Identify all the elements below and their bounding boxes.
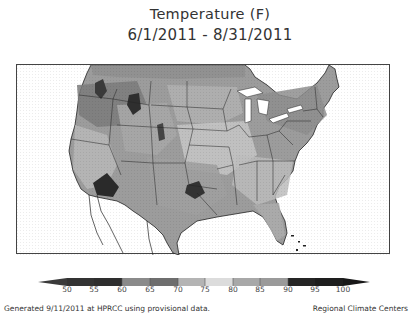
generation-note: Generated 9/11/2011 at HPRCC using provi… <box>4 304 210 313</box>
colorbar-tick-90: 90 <box>283 285 293 294</box>
colorbar-tick-95: 95 <box>310 285 320 294</box>
colorbar <box>0 0 420 321</box>
colorbar-tick-65: 65 <box>145 285 155 294</box>
colorbar-tick-75: 75 <box>200 285 210 294</box>
colorbar-tick-60: 60 <box>117 285 127 294</box>
colorbar-tick-85: 85 <box>255 285 265 294</box>
colorbar-tick-100: 100 <box>336 285 350 294</box>
colorbar-tick-80: 80 <box>228 285 238 294</box>
credit-text: Regional Climate Centers <box>313 304 408 313</box>
colorbar-tick-50: 50 <box>62 285 72 294</box>
colorbar-tick-70: 70 <box>173 285 183 294</box>
colorbar-tick-55: 55 <box>89 285 99 294</box>
